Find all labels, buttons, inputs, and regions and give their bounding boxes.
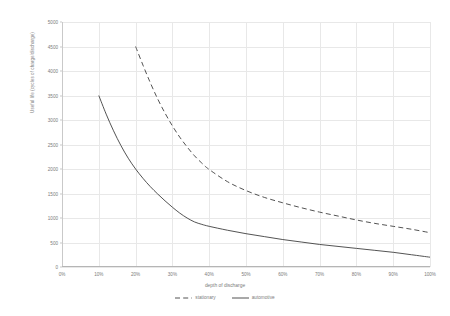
- x-tick-label-30: 30%: [168, 272, 177, 277]
- plot-area: 0500100015002000250030003500400045005000…: [62, 22, 430, 267]
- x-tick-label-50: 50%: [241, 272, 250, 277]
- x-tick-label-90: 90%: [389, 272, 398, 277]
- legend-label-stationary: stationary: [195, 296, 215, 301]
- legend-item-automotive[interactable]: automotive: [232, 296, 275, 301]
- series-line-stationary: [136, 47, 430, 233]
- x-tick-label-10: 10%: [94, 272, 103, 277]
- y-tick-label-1500: 1500: [48, 191, 58, 196]
- y-axis-title: Useful life (cycles of charge/discharge): [30, 0, 35, 153]
- x-tick-label-70: 70%: [315, 272, 324, 277]
- legend-label-automotive: automotive: [252, 296, 275, 301]
- gridline-y-0: [62, 267, 430, 268]
- x-tick-label-100: 100%: [424, 272, 436, 277]
- y-tick-label-4000: 4000: [48, 69, 58, 74]
- chart-legend: stationaryautomotive: [0, 296, 450, 301]
- y-tick-label-1000: 1000: [48, 216, 58, 221]
- y-tick-label-2500: 2500: [48, 142, 58, 147]
- x-tick-label-80: 80%: [352, 272, 361, 277]
- x-axis-title: depth of discharge: [0, 283, 450, 288]
- y-tick-label-0: 0: [55, 265, 58, 270]
- y-tick-label-4500: 4500: [48, 44, 58, 49]
- gridline-x-100: [430, 22, 431, 267]
- legend-item-stationary[interactable]: stationary: [175, 296, 215, 301]
- x-tick-label-60: 60%: [278, 272, 287, 277]
- y-tick-label-3000: 3000: [48, 118, 58, 123]
- y-tick-label-3500: 3500: [48, 93, 58, 98]
- y-tick-label-500: 500: [50, 240, 58, 245]
- y-tick-label-2000: 2000: [48, 167, 58, 172]
- y-tick-label-5000: 5000: [48, 20, 58, 25]
- legend-swatch-stationary: [175, 296, 192, 300]
- x-tick-label-0: 0%: [59, 272, 66, 277]
- series-curves: [62, 22, 430, 267]
- legend-swatch-automotive: [232, 296, 249, 300]
- line-chart: Useful life (cycles of charge/discharge)…: [0, 0, 450, 316]
- series-line-automotive: [99, 96, 430, 258]
- x-tick-label-20: 20%: [131, 272, 140, 277]
- x-tick-label-40: 40%: [205, 272, 214, 277]
